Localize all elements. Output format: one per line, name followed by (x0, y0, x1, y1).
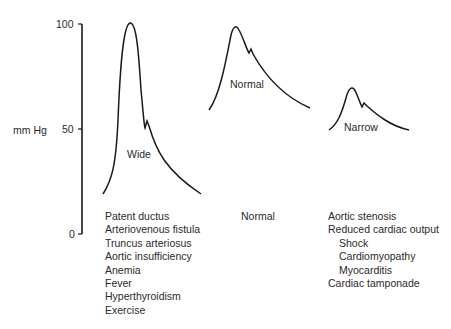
condition-item: Aortic stenosis (328, 210, 439, 223)
narrow-label: Narrow (344, 121, 378, 134)
condition-item: Reduced cardiac output (328, 223, 439, 236)
condition-item: Patent ductus (105, 210, 200, 223)
condition-item: Fever (105, 277, 200, 290)
condition-item: Exercise (105, 304, 200, 317)
tick-label-0: 0 (69, 228, 75, 241)
condition-item: Cardiac tamponade (328, 277, 439, 290)
wide-conditions-list: Patent ductus Arteriovenous fistula Trun… (105, 210, 200, 317)
condition-subitem: Cardiomyopathy (328, 250, 439, 263)
condition-subitem: Myocarditis (328, 264, 439, 277)
condition-item: Arteriovenous fistula (105, 223, 200, 236)
normal-conditions-list: Normal (241, 210, 275, 223)
normal-label: Normal (230, 78, 264, 91)
tick-label-100: 100 (56, 18, 74, 31)
condition-item: Anemia (105, 264, 200, 277)
condition-item: Truncus arteriosus (105, 237, 200, 250)
wide-waveform (103, 23, 201, 194)
normal-waveform (209, 27, 310, 110)
condition-subitem: Shock (328, 237, 439, 250)
tick-label-50: 50 (62, 123, 74, 136)
condition-item: Hyperthyroidism (105, 290, 200, 303)
wide-label: Wide (127, 148, 151, 161)
y-axis-label: mm Hg (13, 124, 47, 137)
narrow-conditions-list: Aortic stenosis Reduced cardiac output S… (328, 210, 439, 290)
condition-item: Aortic insufficiency (105, 250, 200, 263)
condition-item: Normal (241, 210, 275, 223)
